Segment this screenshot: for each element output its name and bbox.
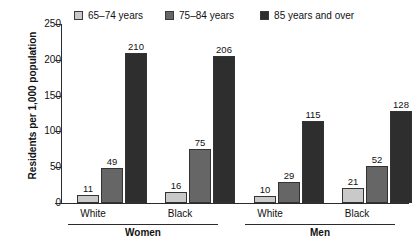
plot-area: 1149210167520610291152152128 (61, 24, 409, 203)
group-rule-women (68, 224, 218, 225)
x-axis-line (61, 203, 409, 204)
bar-value-men-white-85-over: 115 (298, 110, 328, 120)
bar-men-white-65-74 (254, 196, 276, 203)
x-category-men-black: Black (327, 208, 387, 220)
bar-value-women-black-85-over: 206 (209, 45, 239, 55)
bar-women-white-65-74 (77, 195, 99, 203)
legend-swatch-75-84 (165, 11, 174, 20)
legend-item-75-84: 75–84 years (165, 7, 234, 23)
y-tick-0: 0 (0, 203, 61, 204)
legend-swatch-85-over (260, 11, 269, 20)
bar-men-black-75-84 (366, 166, 388, 203)
bar-value-women-black-75-84: 75 (185, 138, 215, 148)
bar-value-women-white-85-over: 210 (121, 42, 151, 52)
y-tick-200: 200 (0, 60, 61, 61)
bar-value-men-black-65-74: 21 (338, 177, 368, 187)
bar-value-women-white-75-84: 49 (97, 157, 127, 167)
bar-chart: 65–74 years 75–84 years 85 years and ove… (0, 0, 413, 247)
x-category-women-black: Black (150, 208, 210, 220)
bar-value-men-black-75-84: 52 (362, 155, 392, 165)
bar-value-women-white-65-74: 11 (73, 184, 103, 194)
bar-men-black-65-74 (342, 188, 364, 203)
bar-value-men-white-65-74: 10 (250, 185, 280, 195)
x-category-men-white: White (240, 208, 300, 220)
legend-label-75-84: 75–84 years (179, 10, 234, 21)
y-tick-50: 50 (0, 167, 61, 168)
bar-group-men-black: 2152128 (342, 24, 412, 203)
bar-value-women-black-65-74: 16 (161, 181, 191, 191)
legend-label-65-74: 65–74 years (88, 10, 143, 21)
bar-women-white-75-84 (101, 168, 123, 203)
legend-label-85-over: 85 years and over (274, 10, 354, 21)
bar-women-white-85-over (125, 53, 147, 203)
bar-men-white-75-84 (278, 182, 300, 203)
group-label-women: Women (68, 227, 218, 239)
y-tick-100: 100 (0, 131, 61, 132)
bar-women-black-65-74 (165, 192, 187, 203)
bar-women-black-75-84 (189, 149, 211, 203)
bar-group-women-white: 1149210 (77, 24, 147, 203)
legend-item-65-74: 65–74 years (74, 7, 143, 23)
legend-item-85-over: 85 years and over (260, 7, 354, 23)
bar-value-men-black-85-over: 128 (386, 100, 413, 110)
y-axis-title: Residents per 1,000 population (27, 8, 38, 204)
x-category-women-white: White (63, 208, 123, 220)
bar-group-men-white: 1029115 (254, 24, 324, 203)
group-label-men: Men (245, 227, 395, 239)
bar-men-white-85-over (302, 121, 324, 203)
y-tick-250: 250 (0, 24, 61, 25)
bar-men-black-85-over (390, 111, 412, 203)
chart-legend: 65–74 years 75–84 years 85 years and ove… (74, 7, 409, 23)
bar-women-black-85-over (213, 56, 235, 203)
bar-group-women-black: 1675206 (165, 24, 235, 203)
legend-swatch-65-74 (74, 11, 83, 20)
bar-value-men-white-75-84: 29 (274, 171, 304, 181)
group-rule-men (245, 224, 395, 225)
y-tick-150: 150 (0, 96, 61, 97)
